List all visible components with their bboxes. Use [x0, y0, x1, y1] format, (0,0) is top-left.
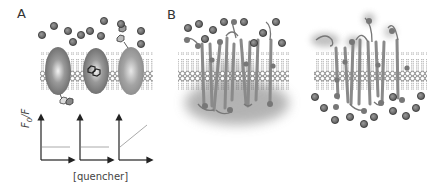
quenchers-panel-b-right [311, 92, 424, 127]
plot-x-axis-label: [quencher] [73, 171, 128, 182]
plot-y-axis-label: F0/F [20, 109, 34, 128]
fluorophore-bottom-icon [60, 94, 73, 105]
quenching-plot-2 [80, 117, 111, 160]
quenching-plot-3 [119, 117, 150, 160]
figure-canvas [0, 0, 445, 190]
quenchers-panel-a [38, 17, 144, 47]
quenching-plot-1 [41, 117, 72, 160]
fluorophore-top-icon [117, 25, 128, 48]
